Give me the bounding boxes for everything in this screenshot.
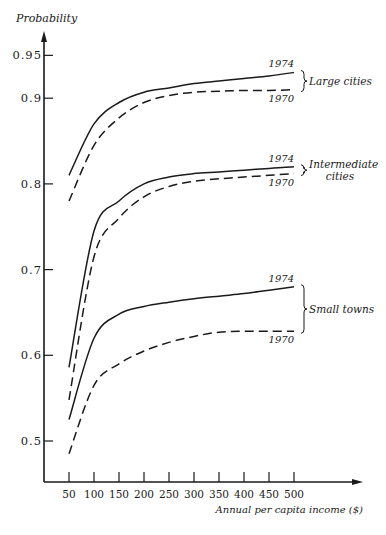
year-label-top: 1974 xyxy=(269,58,294,69)
x-tick-label: 350 xyxy=(209,488,229,500)
y-tick-label: 0.95 xyxy=(12,48,42,62)
x-tick-label: 250 xyxy=(159,488,179,500)
axes: 0.950.90.80.70.60.5Probability5010015020… xyxy=(12,12,363,515)
y-tick-label: 0.6 xyxy=(21,348,42,362)
group-label: Intermediate xyxy=(308,158,378,170)
series-line-small-towns-1974 xyxy=(69,287,294,420)
y-tick-label: 0.5 xyxy=(21,434,42,448)
x-tick-label: 450 xyxy=(259,488,279,500)
x-tick-label: 300 xyxy=(184,488,204,500)
x-tick-label: 400 xyxy=(234,488,254,500)
year-label-top: 1974 xyxy=(269,153,294,164)
x-tick-label: 100 xyxy=(84,488,104,500)
brace-icon xyxy=(301,70,307,91)
group-label: Large cities xyxy=(308,75,373,87)
series-lines xyxy=(69,73,294,454)
group-label: Small towns xyxy=(309,303,375,315)
y-axis-label: Probability xyxy=(15,12,78,25)
year-label-bottom: 1970 xyxy=(269,177,295,188)
y-tick-label: 0.8 xyxy=(21,177,42,191)
series-line-large-cities-1970 xyxy=(69,90,294,201)
year-label-top: 1974 xyxy=(269,273,294,284)
x-tick-label: 50 xyxy=(62,488,75,500)
series-line-intermediate-cities-1974 xyxy=(69,167,294,367)
x-axis-label: Annual per capita income ($) xyxy=(215,504,364,515)
series-line-small-towns-1970 xyxy=(69,331,294,454)
group-label: cities xyxy=(326,170,355,182)
line-chart: 0.950.90.80.70.60.5Probability5010015020… xyxy=(0,0,386,535)
series-line-large-cities-1974 xyxy=(69,73,294,176)
y-axis-arrow-icon xyxy=(41,31,47,42)
brace-icon xyxy=(301,165,307,176)
x-axis-arrow-icon xyxy=(352,479,363,485)
y-tick-label: 0.9 xyxy=(21,91,42,105)
year-label-bottom: 1970 xyxy=(269,334,295,345)
series-line-intermediate-cities-1970 xyxy=(69,174,294,400)
brace-icon xyxy=(301,285,307,334)
x-tick-label: 500 xyxy=(284,488,304,500)
y-tick-label: 0.7 xyxy=(21,263,42,277)
annotations: 19741970Large cities19741970Intermediate… xyxy=(269,58,379,345)
year-label-bottom: 1970 xyxy=(269,93,295,104)
x-tick-label: 200 xyxy=(134,488,154,500)
x-tick-label: 150 xyxy=(109,488,129,500)
